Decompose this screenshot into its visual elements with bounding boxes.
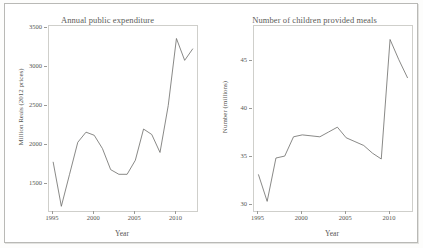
line-series-right	[254, 26, 412, 211]
y-tick-mark	[249, 60, 252, 61]
y-tick-label: 45	[221, 56, 247, 63]
y-tick-label: 30	[221, 200, 247, 207]
y-tick-mark	[249, 156, 252, 157]
y-tick-label: 3000	[16, 62, 42, 69]
chart-title-right: Number of children provided meals	[211, 15, 418, 25]
x-tick-mark	[175, 211, 176, 214]
y-tick-mark	[249, 108, 252, 109]
line-path-left	[53, 38, 193, 206]
x-tick-mark	[389, 211, 390, 214]
x-tick-mark	[301, 211, 302, 214]
plot-area-right	[253, 25, 413, 212]
x-tick-label: 2010	[376, 214, 402, 221]
line-path-right	[258, 39, 407, 201]
y-tick-label: 1500	[16, 179, 42, 186]
y-tick-mark	[44, 183, 47, 184]
x-tick-label: 2000	[80, 214, 106, 221]
y-tick-label: 2500	[16, 101, 42, 108]
plot-area-left	[48, 25, 198, 212]
x-tick-mark	[52, 211, 53, 214]
y-tick-mark	[44, 27, 47, 28]
x-tick-mark	[93, 211, 94, 214]
x-tick-mark	[345, 211, 346, 214]
x-tick-label: 1995	[244, 214, 270, 221]
y-tick-mark	[44, 144, 47, 145]
x-tick-label: 2005	[121, 214, 147, 221]
line-series-left	[49, 26, 197, 211]
chart-panel-number-of-children-provided-meals: Number of children provided meals Number…	[211, 3, 418, 243]
chart-panel-annual-public-expenditure: Annual public expenditure Million Reais …	[4, 3, 211, 243]
x-tick-mark	[257, 211, 258, 214]
x-tick-label: 2010	[162, 214, 188, 221]
y-tick-mark	[44, 66, 47, 67]
x-tick-label: 2005	[332, 214, 358, 221]
y-tick-label: 40	[221, 104, 247, 111]
x-axis-label-right: Year	[253, 229, 411, 238]
y-tick-mark	[44, 105, 47, 106]
y-tick-label: 35	[221, 152, 247, 159]
y-tick-label: 3500	[16, 23, 42, 30]
y-tick-mark	[249, 204, 252, 205]
x-tick-label: 1995	[39, 214, 65, 221]
figure-two-panel-line-charts: Annual public expenditure Million Reais …	[4, 3, 418, 243]
x-tick-mark	[134, 211, 135, 214]
x-axis-label-left: Year	[48, 229, 196, 238]
screenshot-page: Annual public expenditure Million Reais …	[0, 0, 423, 248]
y-tick-label: 2000	[16, 140, 42, 147]
x-tick-label: 2000	[288, 214, 314, 221]
